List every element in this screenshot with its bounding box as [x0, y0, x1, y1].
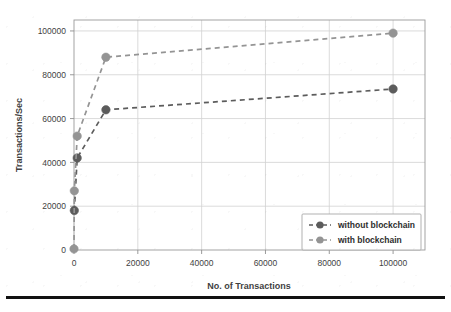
chart-figure: 020000400006000080000100000 020000400006… — [0, 0, 451, 312]
data-point-marker — [73, 154, 81, 162]
chart-legend[interactable]: without blockchainwith blockchain — [302, 214, 421, 250]
x-tick-label: 20000 — [126, 258, 150, 268]
bottom-horizontal-rule — [6, 296, 445, 299]
x-tick-label: 40000 — [190, 258, 214, 268]
data-point-marker — [70, 187, 78, 195]
y-tick-label: 100000 — [38, 26, 67, 36]
data-point-marker — [389, 29, 397, 37]
x-tick-label: 100000 — [379, 258, 408, 268]
x-tick-label: 80000 — [317, 258, 341, 268]
x-tick-label: 0 — [72, 258, 77, 268]
data-point-marker — [389, 85, 397, 93]
y-tick-label: 20000 — [42, 201, 66, 211]
legend-item-label: without blockchain — [337, 220, 415, 230]
y-tick-label: 80000 — [42, 70, 66, 80]
data-point-marker — [102, 53, 110, 61]
line-chart: 020000400006000080000100000 020000400006… — [0, 0, 451, 312]
y-tick-label: 40000 — [42, 158, 66, 168]
y-axis-title: Transactions/Sec — [14, 98, 24, 172]
data-point-marker — [102, 106, 110, 114]
y-tick-labels: 020000400006000080000100000 — [38, 26, 67, 255]
legend-marker-swatch — [316, 221, 323, 228]
legend-item-label: with blockchain — [337, 235, 402, 245]
y-tick-label: 60000 — [42, 114, 66, 124]
x-tick-labels: 020000400006000080000100000 — [72, 258, 408, 268]
legend-marker-swatch — [316, 236, 323, 243]
x-tick-label: 60000 — [254, 258, 278, 268]
x-axis-title: No. of Transactions — [207, 281, 291, 291]
data-point-marker — [73, 132, 81, 140]
y-tick-label: 0 — [61, 245, 66, 255]
data-point-marker — [70, 245, 78, 253]
